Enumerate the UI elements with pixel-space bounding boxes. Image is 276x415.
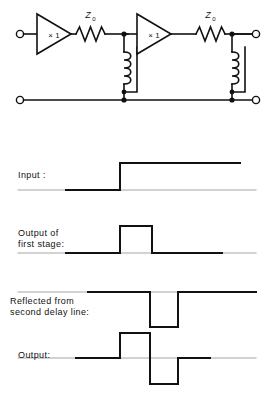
- junction-dot-delay1-return: [122, 90, 127, 95]
- output-terminal-bottom: [252, 96, 259, 103]
- waveform-input-trace: [66, 163, 240, 190]
- waveform-reflected-trace: [88, 292, 256, 327]
- output-terminal-top: [252, 30, 259, 37]
- first-stage-amplifier-label: × 1: [48, 31, 60, 40]
- waveform-output: [18, 333, 256, 384]
- waveform-reflected-label: Reflected fromsecond delay line:: [10, 296, 89, 318]
- delay2-coil: [232, 52, 239, 84]
- first-resistor-label-subscript: 0: [92, 16, 96, 22]
- waveform-first-stage-label: Output offirst stage:: [18, 228, 64, 250]
- first-delay-line: [124, 34, 137, 100]
- first-resistor: [76, 27, 105, 41]
- waveform-input: [18, 163, 256, 190]
- first-resistor-label: Z: [84, 10, 91, 20]
- second-resistor-label: Z: [204, 10, 211, 20]
- waveform-first-stage-trace: [66, 226, 222, 253]
- input-terminal-bottom: [16, 96, 23, 103]
- second-stage-amplifier-label: × 1: [148, 31, 160, 40]
- junction-dot-delay2-return: [230, 90, 235, 95]
- delay1-coil: [124, 52, 131, 84]
- waveform-first-stage-label-line1: Output of: [18, 228, 59, 238]
- second-resistor-label-subscript: 0: [212, 16, 216, 22]
- waveform-output-trace: [76, 333, 210, 384]
- waveform-first-stage-label-line2: first stage:: [18, 239, 64, 249]
- waveform-input-label: Input :: [18, 170, 46, 181]
- second-resistor: [196, 27, 225, 41]
- waveform-reflected-label-line2: second delay line:: [10, 307, 89, 317]
- input-terminal-top: [16, 30, 23, 37]
- second-delay-line: [232, 34, 245, 100]
- circuit-diagram: × 1 Z 0 × 1 Z 0: [16, 10, 259, 104]
- waveform-reflected-label-line1: Reflected from: [10, 296, 74, 306]
- waveform-output-label: Output:: [18, 350, 50, 361]
